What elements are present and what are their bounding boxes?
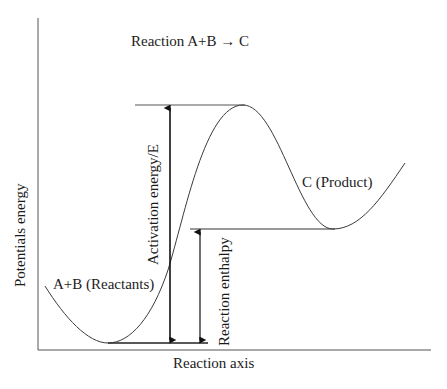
x-axis-label: Reaction axis xyxy=(173,356,254,371)
energy-diagram: Reaction A+B → C C (Product) A+B (Reacta… xyxy=(0,0,447,389)
reaction-enthalpy-label: Reaction enthalpy xyxy=(216,237,233,346)
product-label: C (Product) xyxy=(302,175,372,190)
reactants-label: A+B (Reactants) xyxy=(53,277,154,292)
activation-energy-label: Activation energy/E xyxy=(145,144,162,265)
diagram-title: Reaction A+B → C xyxy=(131,34,249,49)
y-axis-label: Potentials energy xyxy=(12,184,29,287)
